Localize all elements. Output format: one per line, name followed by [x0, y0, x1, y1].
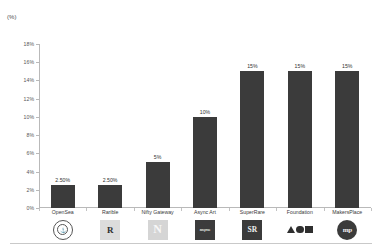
bar-slot: 2.50% [86, 44, 133, 208]
async-art-logo: async [195, 220, 215, 240]
bar-nifty-gateway[interactable]: 5% [146, 162, 170, 208]
y-tick-label: 8% [27, 132, 35, 138]
category-async-art: Async Artasync [181, 209, 228, 240]
category-axis: OpenSea⚓RaribleRNifty GatewayNAsync Arta… [39, 209, 371, 240]
logo-container: mp [337, 219, 358, 240]
category-foundation: Foundation [276, 209, 323, 240]
footer-divider [10, 243, 372, 244]
category-nifty-gateway: Nifty GatewayN [134, 209, 181, 240]
category-superrare: SuperRareSR [229, 209, 276, 240]
plot-area: 0%2%4%6%8%10%12%14%16%18% 2.50%2.50%5%10… [39, 44, 371, 208]
bar-value-label: 5% [154, 154, 162, 160]
y-tick-label: 2% [27, 187, 35, 193]
logo-container: N [147, 219, 168, 240]
category-label: Async Art [194, 209, 216, 216]
logo-container: async [194, 219, 215, 240]
bar-foundation[interactable]: 15% [288, 71, 312, 208]
bar-value-label: 2.50% [55, 177, 70, 183]
bar-async-art[interactable]: 10% [193, 117, 217, 208]
bar-slot: 10% [181, 44, 228, 208]
superrare-logo: SR [242, 220, 262, 240]
category-label: SuperRare [240, 209, 265, 216]
chart-page: (%) 0%2%4%6%8%10%12%14%16%18% 2.50%2.50%… [0, 0, 381, 251]
category-rarible: RaribleR [86, 209, 133, 240]
rarible-logo: R [100, 220, 120, 240]
bar-slot: 5% [134, 44, 181, 208]
category-label: Foundation [287, 209, 313, 216]
opensea-inner-mark: ⚓ [57, 224, 68, 235]
x-tick [371, 208, 372, 211]
opensea-logo: ⚓ [53, 220, 73, 240]
bar-value-label: 15% [295, 63, 305, 69]
bar-series: 2.50%2.50%5%10%15%15%15% [39, 44, 371, 208]
bar-slot: 15% [324, 44, 371, 208]
category-label: Nifty Gateway [141, 209, 173, 216]
y-tick-label: 18% [24, 41, 34, 47]
bar-slot: 15% [276, 44, 323, 208]
category-makersplace: MakersPlacemp [324, 209, 371, 240]
bar-value-label: 15% [247, 63, 257, 69]
logo-container: R [100, 219, 121, 240]
logo-container: ⚓ [52, 219, 73, 240]
bar-slot: 15% [229, 44, 276, 208]
logo-container: SR [242, 219, 263, 240]
nifty-gateway-logo: N [148, 220, 168, 240]
foundation-shape-circle-icon [296, 226, 304, 234]
y-tick-label: 14% [24, 77, 34, 83]
y-tick-label: 10% [24, 114, 34, 120]
category-label: Rarible [102, 209, 118, 216]
bar-value-label: 2.50% [103, 177, 118, 183]
bar-superrare[interactable]: 15% [240, 71, 264, 208]
makersplace-logo: mp [337, 220, 357, 240]
y-tick-label: 12% [24, 96, 34, 102]
bar-value-label: 15% [342, 63, 352, 69]
bar-opensea[interactable]: 2.50% [51, 185, 75, 208]
bar-slot: 2.50% [39, 44, 86, 208]
bar-value-label: 10% [200, 109, 210, 115]
foundation-shape-square-icon [305, 226, 313, 234]
y-tick-label: 0% [27, 205, 35, 211]
category-opensea: OpenSea⚓ [39, 209, 86, 240]
y-tick-label: 6% [27, 150, 35, 156]
foundation-shape-triangle-icon [287, 226, 295, 233]
y-tick-label: 16% [24, 59, 34, 65]
category-label: OpenSea [52, 209, 74, 216]
logo-container [289, 219, 310, 240]
bar-makersplace[interactable]: 15% [335, 71, 359, 208]
y-tick-label: 4% [27, 169, 35, 175]
category-label: MakersPlace [332, 209, 362, 216]
foundation-logo [287, 220, 312, 240]
bar-rarible[interactable]: 2.50% [98, 185, 122, 208]
y-axis-unit-label: (%) [7, 13, 17, 21]
